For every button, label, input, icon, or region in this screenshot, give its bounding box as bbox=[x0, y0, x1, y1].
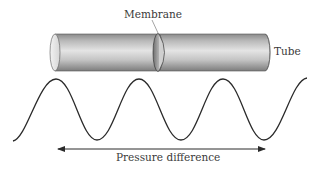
diagram-svg bbox=[0, 0, 322, 170]
pressure-wave bbox=[13, 78, 307, 141]
tube-label: Tube bbox=[274, 46, 301, 57]
membrane bbox=[152, 20, 165, 72]
diagram-canvas: Membrane Tube Pressure difference bbox=[0, 0, 322, 170]
tube-left-end bbox=[50, 34, 60, 71]
pressure-difference-label: Pressure difference bbox=[116, 152, 220, 163]
membrane-label: Membrane bbox=[124, 9, 182, 20]
membrane-leader-line bbox=[152, 20, 158, 33]
